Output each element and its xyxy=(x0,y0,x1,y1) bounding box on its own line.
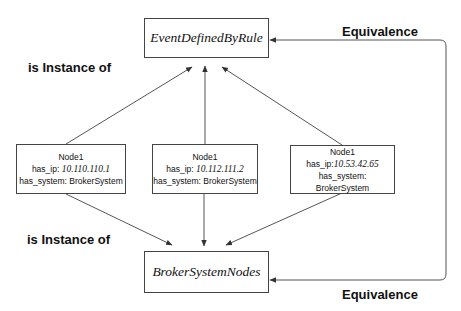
node-system: has_system: BrokerSystem xyxy=(19,175,122,187)
equivalence-label-top: Equivalence xyxy=(342,24,418,39)
class-label: EventDefinedByRule xyxy=(150,30,262,46)
class-box-brokersystemnodes: BrokerSystemNodes xyxy=(144,251,269,293)
node-ip-row: has_ip:10.53.42.65 xyxy=(306,158,379,170)
arrow-node3-to-brokersystemnodes xyxy=(226,193,342,245)
node-system: has_system: BrokerSystem xyxy=(291,170,394,194)
node-ip-key: has_ip: xyxy=(306,159,333,169)
ontology-diagram: EventDefinedByRule Node1 has_ip: 10.110.… xyxy=(0,0,461,311)
equivalence-connector xyxy=(440,40,446,280)
equivalence-label-bottom: Equivalence xyxy=(342,287,418,302)
node-ip-value: 10.53.42.65 xyxy=(334,159,379,169)
node-name: Node1 xyxy=(192,151,217,163)
node-system: has_system: BrokerSystem xyxy=(153,175,256,187)
node-box-3: Node1 has_ip:10.53.42.65 has_system: Bro… xyxy=(290,145,395,194)
arrow-node3-to-eventdefinedbyrule xyxy=(222,67,342,145)
node-ip-value: 10.110.110.1 xyxy=(62,164,110,174)
node-ip-row: has_ip: 10.110.110.1 xyxy=(32,163,110,175)
node-ip-key: has_ip: xyxy=(32,164,62,174)
arrow-node1-to-eventdefinedbyrule xyxy=(66,67,192,144)
is-instance-of-label-bottom: is Instance of xyxy=(27,232,110,247)
node-ip-row: has_ip: 10.112.111.2 xyxy=(166,163,244,175)
is-instance-of-label-top: is Instance of xyxy=(28,60,111,75)
node-box-2: Node1 has_ip: 10.112.111.2 has_system: B… xyxy=(152,144,258,194)
class-box-eventdefinedbyrule: EventDefinedByRule xyxy=(144,18,269,58)
node-ip-value: 10.112.111.2 xyxy=(196,164,244,174)
class-label: BrokerSystemNodes xyxy=(152,264,260,280)
node-name: Node1 xyxy=(330,146,355,158)
node-ip-key: has_ip: xyxy=(166,164,196,174)
node-box-1: Node1 has_ip: 10.110.110.1 has_system: B… xyxy=(16,144,126,194)
node-name: Node1 xyxy=(58,151,83,163)
